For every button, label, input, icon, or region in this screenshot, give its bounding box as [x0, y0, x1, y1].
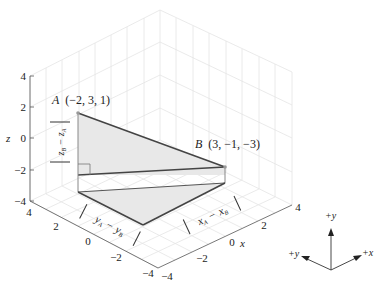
svg-text:2: 2 — [261, 219, 267, 231]
svg-text:−4: −4 — [14, 195, 26, 207]
svg-text:−2: −2 — [14, 164, 26, 176]
z-tick-labels: 4 2 0 −2 −4 — [14, 70, 26, 207]
x-tick-labels: −4 −2 0 2 4 — [161, 201, 301, 282]
point-b-label: B (3, −1, −3) — [195, 137, 260, 151]
z-axis-label: z — [5, 132, 11, 144]
svg-text:−4: −4 — [161, 270, 173, 282]
svg-text:2: 2 — [53, 220, 59, 232]
svg-text:−2: −2 — [196, 252, 208, 264]
triad-plus-y-left-label: +y — [288, 248, 300, 259]
z-diff-annotation: zB−zA — [50, 122, 70, 162]
triad-plus-x-label: +x — [362, 247, 374, 258]
svg-text:zB−zA: zB−zA — [55, 128, 67, 156]
svg-text:2: 2 — [21, 101, 27, 113]
point-a-label: A (−2, 3, 1) — [51, 93, 110, 107]
point-b-marker — [223, 165, 227, 169]
svg-text:−2: −2 — [110, 251, 122, 263]
svg-text:4: 4 — [21, 70, 27, 82]
svg-text:4: 4 — [26, 206, 32, 218]
orientation-triad — [301, 228, 362, 270]
svg-text:4: 4 — [295, 201, 301, 213]
x-axis-label: x — [239, 237, 245, 249]
svg-text:0: 0 — [85, 235, 91, 247]
triad-plus-y-label: +y — [325, 210, 337, 221]
svg-text:0: 0 — [229, 236, 235, 248]
svg-text:−4: −4 — [142, 267, 154, 279]
svg-text:0: 0 — [21, 132, 27, 144]
point-a-marker — [76, 111, 80, 115]
3d-plot: A (−2, 3, 1) B (3, −1, −3) 4 2 0 −2 −4 z… — [0, 0, 379, 288]
